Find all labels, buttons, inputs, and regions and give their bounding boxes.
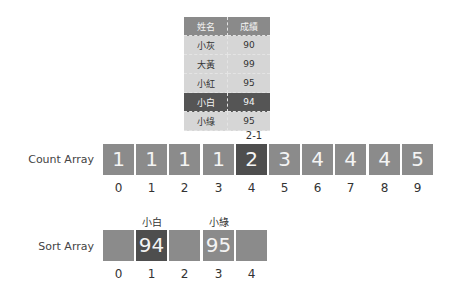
sort-index: 2 bbox=[169, 267, 200, 281]
count-index: 1 bbox=[136, 181, 167, 195]
count-cell: 4 bbox=[335, 144, 366, 175]
row-name: 小灰 bbox=[184, 36, 228, 55]
row-name: 大黃 bbox=[184, 55, 228, 74]
count-cell: 2 bbox=[236, 144, 267, 175]
sort-name: 小白 bbox=[132, 214, 172, 229]
count-annotation: 2-1 bbox=[234, 130, 274, 141]
sort-cell: 94 bbox=[136, 230, 167, 261]
count-index: 5 bbox=[269, 181, 300, 195]
count-array-label: Count Array bbox=[4, 153, 94, 166]
sort-name: 小綠 bbox=[199, 214, 239, 229]
row-name: 小綠 bbox=[184, 112, 228, 131]
count-cell: 3 bbox=[269, 144, 300, 175]
row-score: 95 bbox=[228, 74, 271, 93]
table-header-row: 姓名 成績 bbox=[184, 17, 270, 36]
sort-cell bbox=[103, 230, 134, 261]
count-index: 6 bbox=[302, 181, 333, 195]
row-name: 小紅 bbox=[184, 74, 228, 93]
count-index: 0 bbox=[103, 181, 134, 195]
row-score: 95 bbox=[228, 112, 271, 131]
count-cell: 4 bbox=[302, 144, 333, 175]
count-cell: 1 bbox=[103, 144, 134, 175]
table-row: 小灰 90 bbox=[184, 36, 270, 55]
count-cell: 1 bbox=[136, 144, 167, 175]
row-score: 90 bbox=[228, 36, 271, 55]
sort-index: 4 bbox=[236, 267, 267, 281]
header-name: 姓名 bbox=[184, 17, 228, 36]
sort-array-label: Sort Array bbox=[4, 240, 94, 253]
count-index: 3 bbox=[203, 181, 234, 195]
row-score: 99 bbox=[228, 55, 271, 74]
sort-index: 3 bbox=[203, 267, 234, 281]
table-row-highlighted: 小白 94 bbox=[184, 93, 270, 112]
count-index: 4 bbox=[236, 181, 267, 195]
count-index: 2 bbox=[169, 181, 200, 195]
count-cell: 1 bbox=[203, 144, 234, 175]
count-index: 8 bbox=[369, 181, 400, 195]
sort-index: 0 bbox=[103, 267, 134, 281]
sort-cell bbox=[169, 230, 200, 261]
count-cell: 4 bbox=[369, 144, 400, 175]
sort-cell: 95 bbox=[203, 230, 234, 261]
count-index: 9 bbox=[402, 181, 433, 195]
score-table: 姓名 成績 小灰 90 大黃 99 小紅 95 小白 94 小綠 95 bbox=[184, 17, 270, 131]
sort-index: 1 bbox=[136, 267, 167, 281]
sort-cell bbox=[236, 230, 267, 261]
table-row: 小紅 95 bbox=[184, 74, 270, 93]
row-score: 94 bbox=[228, 93, 271, 112]
row-name: 小白 bbox=[184, 93, 228, 112]
header-score: 成績 bbox=[228, 17, 271, 36]
table-row: 大黃 99 bbox=[184, 55, 270, 74]
count-index: 7 bbox=[335, 181, 366, 195]
count-cell: 1 bbox=[169, 144, 200, 175]
table-row: 小綠 95 bbox=[184, 112, 270, 131]
count-cell: 5 bbox=[402, 144, 433, 175]
